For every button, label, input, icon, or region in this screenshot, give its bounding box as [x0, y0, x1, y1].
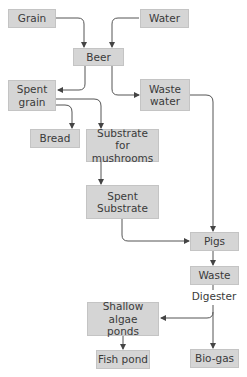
edge-grain-beer	[56, 18, 84, 47]
node-spent-grain: Spent grain	[8, 80, 56, 111]
edge-spentgrain-bread	[56, 105, 72, 128]
edge-spentgrain-substrate	[56, 99, 101, 128]
node-bread: Bread	[30, 129, 80, 148]
node-shallow-algae-ponds: Shallow algae ponds	[87, 302, 159, 336]
node-grain: Grain	[8, 9, 56, 28]
node-substrate-for-mushrooms: Substrate for mushrooms	[86, 129, 159, 162]
node-spent-substrate: Spent Substrate	[86, 185, 159, 219]
node-waste: Waste	[190, 266, 239, 285]
node-water: Water	[140, 9, 189, 28]
edge-beer-wastewater	[112, 66, 139, 95]
node-fish-pond: Fish pond	[96, 350, 150, 369]
edge-water-beer	[112, 18, 139, 47]
node-bio-gas: Bio-gas	[190, 349, 239, 368]
node-beer: Beer	[73, 48, 124, 66]
edge-wastewater-pigs	[190, 95, 213, 231]
node-pigs: Pigs	[190, 232, 239, 251]
edge-beer-spentgrain	[58, 66, 85, 90]
edge-spentsubstrate-pigs	[122, 219, 189, 241]
label-digester: Digester	[190, 290, 238, 302]
edge-digester-algae	[161, 305, 213, 318]
node-waste-water: Waste water	[140, 79, 190, 111]
